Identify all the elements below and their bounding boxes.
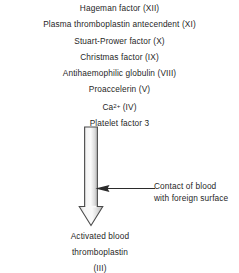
factor-label: Hageman factor (XII) <box>80 3 159 13</box>
factor-line-plasma-thromboplastin-antecendent: Plasma thromboplastin antecendent (XI) <box>0 16 239 32</box>
annotation-line-1: Contact of blood <box>154 180 239 192</box>
pointer-head <box>95 185 109 192</box>
factor-line-calcium: Ca2+ (IV) <box>0 98 239 116</box>
product-line-2: thromboplastin <box>14 244 186 260</box>
annotation-pointer-left-arrow-icon <box>93 181 155 195</box>
coagulation-cascade-diagram: Hageman factor (XII) Plasma thromboplast… <box>0 0 239 273</box>
factor-line-hageman: Hageman factor (XII) <box>0 0 239 16</box>
reaction-arrow-down-icon <box>78 126 104 227</box>
arrow-head <box>79 207 103 226</box>
factor-label: Plasma thromboplastin antecendent (XI) <box>43 19 196 29</box>
product-line-3: (III) <box>14 260 186 273</box>
factor-line-platelet-factor-3: Platelet factor 3 <box>0 115 239 131</box>
factor-label: Stuart-Prower factor (X) <box>74 36 164 46</box>
factor-line-antihaemophilic-globulin: Antihaemophilic globulin (VIII) <box>0 65 239 81</box>
product-line-1: Activated blood <box>14 228 186 244</box>
factor-label-base: Ca <box>102 102 113 112</box>
arrow-shaft <box>85 127 98 208</box>
factor-line-christmas: Christmas factor (IX) <box>0 49 239 65</box>
factor-label: Christmas factor (IX) <box>80 52 159 62</box>
factor-line-proaccelerin: Proaccelerin (V) <box>0 81 239 97</box>
product-label-activated-blood-thromboplastin: Activated blood thromboplastin (III) <box>14 228 186 273</box>
clotting-factor-list: Hageman factor (XII) Plasma thromboplast… <box>0 0 239 132</box>
annotation-line-2: with foreign surface <box>154 192 239 204</box>
factor-label: Proaccelerin (V) <box>89 84 150 94</box>
factor-line-stuart-prower: Stuart-Prower factor (X) <box>0 33 239 49</box>
factor-label: Antihaemophilic globulin (VIII) <box>63 68 176 78</box>
factor-label-suffix: (IV) <box>120 102 136 112</box>
annotation-contact-of-blood: Contact of blood with foreign surface <box>154 180 239 205</box>
